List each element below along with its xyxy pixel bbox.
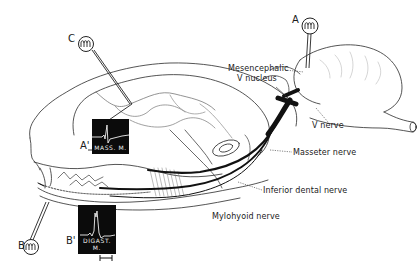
label-mylohyoid-nerve: Mylohyoid nerve bbox=[212, 212, 280, 221]
label-v-nerve: V nerve bbox=[312, 121, 344, 130]
diagram-drawing bbox=[0, 0, 420, 272]
upper-jaw bbox=[34, 162, 222, 177]
electrode-a-lead bbox=[306, 34, 308, 68]
digastric-caption: DIGAST. M. bbox=[78, 237, 116, 251]
electrode-b-label: B bbox=[18, 240, 25, 251]
scale-bar bbox=[100, 255, 112, 261]
recording-a-prime-marker: A' bbox=[80, 140, 90, 151]
label-v-nucleus: V nucleus bbox=[237, 74, 277, 83]
electrode-b-lead bbox=[30, 202, 46, 240]
v-nerve-trunk bbox=[268, 100, 290, 134]
masseter-caption: MASS. M. bbox=[92, 144, 129, 151]
cerebellum bbox=[300, 45, 402, 112]
label-inferior-dental-nerve: Inferior dental nerve bbox=[263, 186, 347, 195]
electrode-a-meter bbox=[302, 18, 318, 34]
oscilloscope-trace-digastric: DIGAST. M. bbox=[78, 205, 116, 254]
label-mesencephalic: Mesencephalic bbox=[228, 64, 289, 73]
electrode-c-label: C bbox=[68, 33, 75, 44]
masseter-nerve-path bbox=[148, 124, 276, 173]
electrode-a-label: A bbox=[292, 14, 299, 25]
label-masseter-nerve: Masseter nerve bbox=[293, 148, 356, 157]
oscilloscope-trace-masseter: MASS. M. bbox=[92, 119, 129, 154]
recording-b-prime-marker: B' bbox=[66, 235, 76, 246]
anatomy-diagram: C A B A' B' MASS. M. DIGAST. M. Mesencep… bbox=[0, 0, 420, 272]
